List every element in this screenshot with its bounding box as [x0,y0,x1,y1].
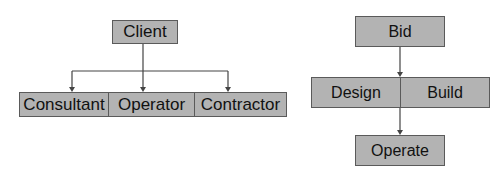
build-label: Build [427,84,463,102]
client-connectors [72,43,228,88]
operate-label: Operate [371,142,429,160]
design-box: Design [311,77,401,108]
operator-box: Operator [108,92,195,117]
bid-label: Bid [388,23,411,41]
consultant-label: Consultant [23,95,104,115]
contractor-box: Contractor [194,92,287,117]
consultant-box: Consultant [19,92,109,117]
operate-box: Operate [355,135,445,166]
contractor-label: Contractor [201,95,280,115]
bid-box: Bid [355,16,445,47]
design-label: Design [331,84,381,102]
client-label: Client [123,22,166,42]
operator-label: Operator [118,95,185,115]
client-box: Client [112,20,178,44]
build-box: Build [400,77,490,108]
